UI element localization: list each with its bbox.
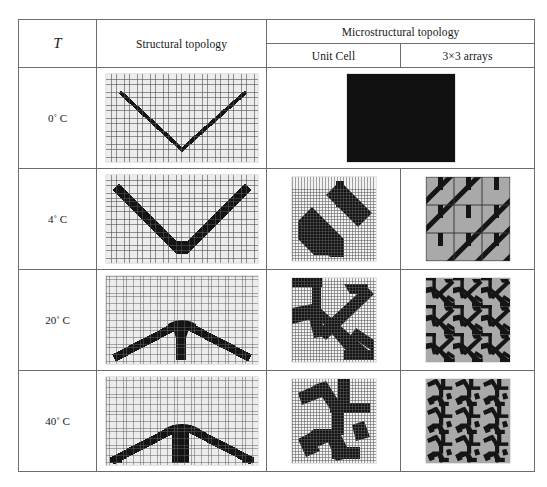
figure-diagonal-stripe-lattice	[426, 177, 510, 261]
topology-table-container: T Structural topology Microstructural to…	[18, 19, 535, 472]
table-header: T Structural topology Microstructural to…	[19, 20, 535, 68]
array-figure	[401, 169, 535, 270]
angled-truss-cell-shape	[292, 278, 376, 362]
header-unit-cell: Unit Cell	[267, 44, 401, 68]
array-figure	[401, 371, 535, 472]
unit-cell-figure	[267, 68, 535, 169]
array-figure	[401, 270, 535, 371]
figure-zigzag-triangular-lattice	[426, 379, 510, 463]
temperature-value: 40˚ C	[19, 371, 97, 472]
figure-flat-arch-with-column	[106, 377, 258, 465]
unit-cell-figure	[267, 371, 401, 472]
table-body: 0˚ C	[19, 68, 535, 472]
structural-topology-figure	[97, 169, 267, 270]
unit-cell-figure	[267, 270, 401, 371]
flat-arch-with-column-shape	[106, 377, 258, 465]
structural-topology-figure	[97, 68, 267, 169]
diagonal-stripe-lattice-shape	[426, 177, 510, 261]
header-microstructural-topology: Microstructural topology	[267, 20, 535, 44]
temperature-value: 20˚ C	[19, 270, 97, 371]
structural-topology-figure	[97, 371, 267, 472]
header-temperature: T	[19, 20, 97, 68]
two-diagonal-bars-shape	[292, 177, 376, 261]
header-row-top: T Structural topology Microstructural to…	[19, 20, 535, 44]
figure-two-diagonal-bars	[292, 177, 376, 261]
header-3x3-arrays: 3×3 arrays	[401, 44, 535, 68]
dense-triangular-lattice-shape	[426, 278, 510, 362]
unit-cell-figure	[267, 169, 401, 270]
thick-v-truss-shape	[106, 175, 258, 263]
figure-dense-triangular-lattice	[426, 278, 510, 362]
figure-branched-truss-cell	[292, 379, 376, 463]
figure-thin-v-truss	[106, 74, 258, 162]
thin-v-truss-shape	[106, 74, 258, 162]
table-row: 0˚ C	[19, 68, 535, 169]
figure-arch-with-center-stem	[106, 276, 258, 364]
table-row: 20˚ C	[19, 270, 535, 371]
figure-solid-black-square	[347, 74, 455, 162]
zigzag-triangular-lattice-shape	[426, 379, 510, 463]
header-structural-topology: Structural topology	[97, 20, 267, 68]
temperature-value: 0˚ C	[19, 68, 97, 169]
solid-texture	[347, 74, 455, 162]
table-row: 4˚ C	[19, 169, 535, 270]
figure-thick-v-truss	[106, 175, 258, 263]
arch-with-center-stem-shape	[106, 276, 258, 364]
branched-truss-cell-shape	[292, 379, 376, 463]
topology-table: T Structural topology Microstructural to…	[18, 19, 535, 472]
table-row: 40˚ C	[19, 371, 535, 472]
temperature-value: 4˚ C	[19, 169, 97, 270]
structural-topology-figure	[97, 270, 267, 371]
figure-angled-truss-cell	[292, 278, 376, 362]
